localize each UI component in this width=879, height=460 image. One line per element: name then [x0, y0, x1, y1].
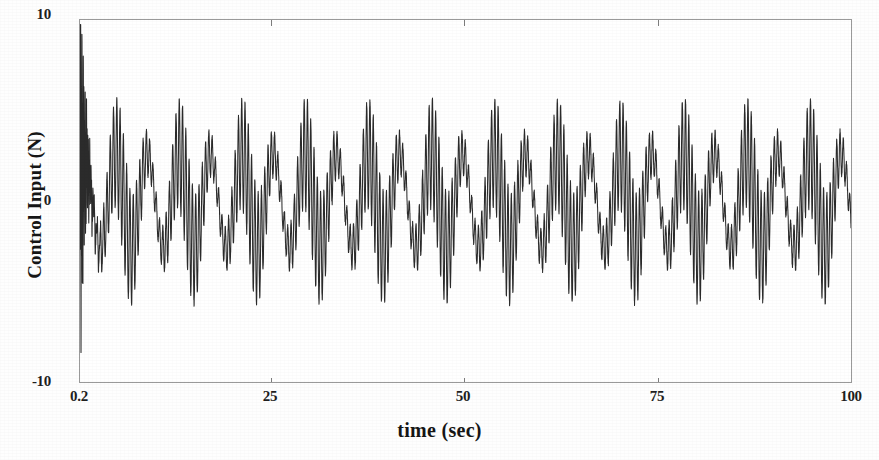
y-tick-label-neg10: -10	[5, 373, 51, 390]
x-tick-mark-75-top	[658, 19, 659, 26]
x-axis-title: time (sec)	[0, 419, 879, 442]
x-tick-mark-25-bottom	[271, 378, 272, 383]
x-tick-label-100: 100	[825, 388, 877, 405]
y-axis-title: Control Input (N)	[24, 75, 46, 335]
y-tick-label-10: 10	[5, 6, 51, 23]
x-tick-label-75: 75	[633, 388, 681, 405]
x-tick-label-0: 0.2	[55, 388, 103, 405]
x-tick-mark-75-bottom	[658, 378, 659, 383]
x-tick-mark-50-bottom	[464, 378, 465, 383]
signal-line-plot	[80, 20, 851, 382]
figure-canvas: 10 0 -10 0.2 25 50 75 100 Control Input …	[0, 0, 879, 460]
x-tick-mark-50-top	[464, 19, 465, 26]
signal-trace	[80, 25, 851, 353]
x-tick-label-50: 50	[439, 388, 487, 405]
x-tick-label-25: 25	[246, 388, 294, 405]
plot-area	[79, 19, 852, 383]
x-tick-mark-25-top	[271, 19, 272, 26]
